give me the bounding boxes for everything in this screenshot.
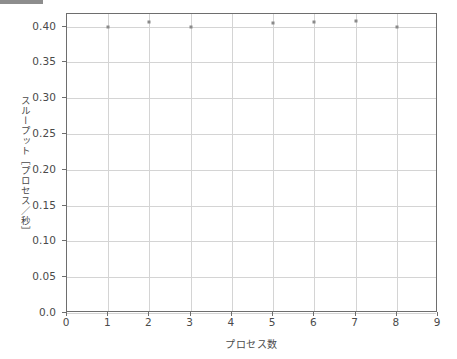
tick-mark-y	[62, 205, 66, 206]
tick-label-y: 0.35	[0, 55, 56, 67]
tick-label-y: 0.10	[0, 234, 56, 246]
tick-label-x: 4	[216, 316, 246, 328]
scatter-point	[107, 26, 110, 29]
tick-label-y: 0.0	[0, 306, 56, 318]
tick-label-x: 1	[92, 316, 122, 328]
gridline-y	[67, 98, 436, 99]
plot-area	[66, 13, 437, 312]
tick-mark-y	[62, 169, 66, 170]
tick-label-x: 7	[340, 316, 370, 328]
gridline-x	[273, 14, 274, 311]
gridline-x	[397, 14, 398, 311]
gridline-y	[67, 62, 436, 63]
tick-mark-y	[62, 26, 66, 27]
scatter-point	[148, 20, 151, 23]
y-axis-label: スループット［プロセス／秒］	[14, 96, 30, 236]
tick-mark-y	[62, 97, 66, 98]
tick-label-y: 0.40	[0, 20, 56, 32]
tick-mark-y	[62, 133, 66, 134]
tick-mark-y	[62, 240, 66, 241]
tick-label-x: 3	[175, 316, 205, 328]
x-axis-label: プロセス数	[66, 336, 437, 351]
scatter-point	[354, 19, 357, 22]
gridline-y	[67, 241, 436, 242]
scatter-point	[395, 25, 398, 28]
tick-mark-y	[62, 61, 66, 62]
tick-label-y: 0.05	[0, 270, 56, 282]
chart-figure: 0.00.050.100.150.200.250.300.350.40 0123…	[0, 0, 457, 359]
gridline-y	[67, 27, 436, 28]
gridline-x	[108, 14, 109, 311]
gridline-x	[356, 14, 357, 311]
gridline-x	[232, 14, 233, 311]
tick-label-x: 0	[51, 316, 81, 328]
scatter-point	[189, 25, 192, 28]
gridline-y	[67, 313, 436, 314]
tick-label-x: 9	[422, 316, 452, 328]
gridline-y	[67, 170, 436, 171]
scatter-point	[313, 20, 316, 23]
tick-label-x: 8	[381, 316, 411, 328]
tick-label-x: 2	[133, 316, 163, 328]
gridline-y	[67, 134, 436, 135]
gridline-y	[67, 206, 436, 207]
gridline-x	[314, 14, 315, 311]
tick-mark-y	[62, 276, 66, 277]
tick-label-x: 6	[298, 316, 328, 328]
gridline-x	[149, 14, 150, 311]
gridline-x	[191, 14, 192, 311]
scatter-point	[272, 21, 275, 24]
tick-label-x: 5	[257, 316, 287, 328]
gridline-y	[67, 277, 436, 278]
